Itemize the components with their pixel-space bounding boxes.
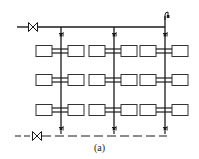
riser-bottom-valve-icon-body <box>113 128 116 131</box>
radiator-left <box>140 105 156 116</box>
riser-top-valve-icon-body <box>164 34 167 37</box>
radiator-right <box>121 75 137 86</box>
radiator-right <box>172 105 188 116</box>
radiator-left <box>140 46 156 57</box>
air-vent-valve-icon <box>167 15 170 18</box>
radiator-right <box>172 75 188 86</box>
radiator-left <box>36 105 52 116</box>
radiator-left <box>89 75 105 86</box>
return-valve-icon <box>33 132 42 141</box>
radiator-right <box>121 46 137 57</box>
radiator-right <box>121 105 137 116</box>
riser-top-valve-icon-body <box>60 34 63 37</box>
heating-schematic <box>0 0 199 159</box>
radiator-right <box>68 105 84 116</box>
riser-bottom-valve-icon-body <box>164 128 167 131</box>
figure-caption: (a) <box>0 142 199 153</box>
radiator-left <box>89 105 105 116</box>
radiator-right <box>68 46 84 57</box>
riser-top-valve-icon-body <box>113 34 116 37</box>
radiator-left <box>36 75 52 86</box>
radiator-right <box>172 46 188 57</box>
radiator-left <box>89 46 105 57</box>
radiator-right <box>68 75 84 86</box>
radiator-left <box>36 46 52 57</box>
radiator-left <box>140 75 156 86</box>
riser-bottom-valve-icon-body <box>60 128 63 131</box>
supply-valve-icon <box>29 23 38 32</box>
